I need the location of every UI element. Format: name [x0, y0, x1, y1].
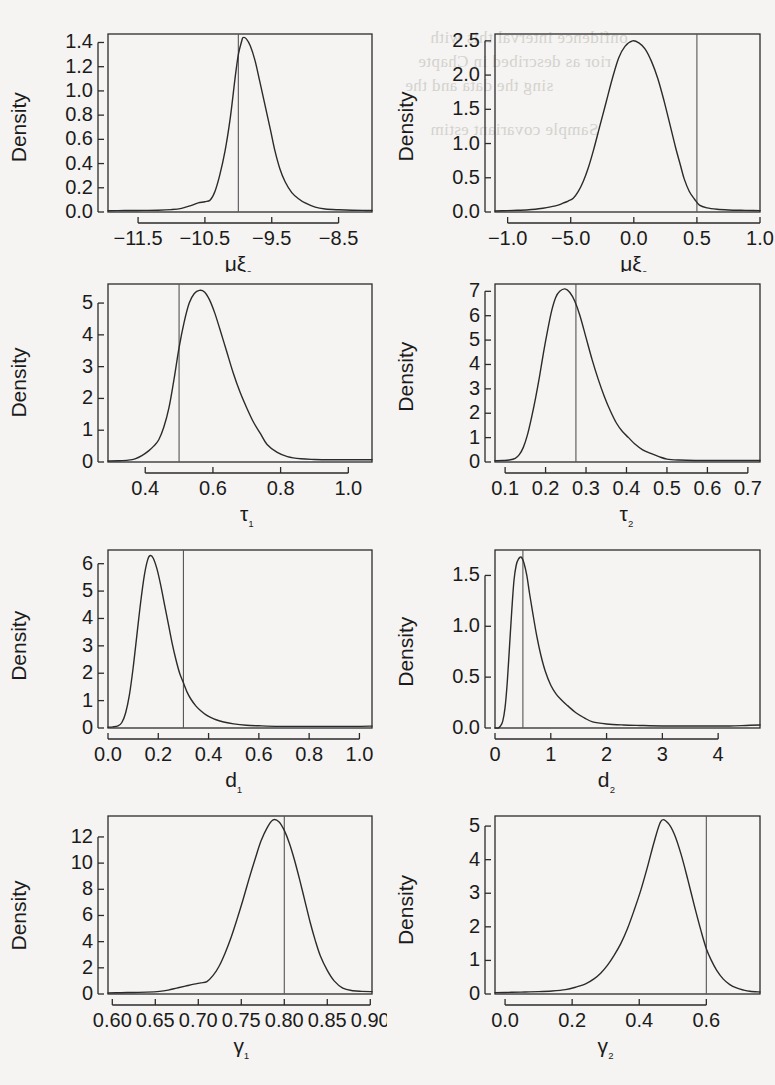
y-tick-label: 4: [469, 352, 480, 374]
x-tick-label: 2: [601, 743, 612, 765]
y-tick-label: 4: [469, 848, 480, 870]
y-tick-label: 0: [82, 982, 93, 1004]
x-tick-label: 0.8: [295, 743, 323, 765]
y-tick-label: 1: [469, 948, 480, 970]
x-tick-label: 0.6: [199, 477, 227, 499]
x-tick-label: 1: [545, 743, 556, 765]
density-plot-svg: 012345Density0.00.20.40.6γ₂: [387, 804, 775, 1085]
density-plot-svg: 0.00.20.40.60.81.01.21.4Density−11.5−10.…: [0, 0, 387, 272]
y-tick-label: 3: [469, 881, 480, 903]
x-tick-label: 0.3: [572, 477, 600, 499]
x-tick-label: 0.0: [491, 1009, 519, 1031]
x-tick-label: 0.2: [558, 1009, 586, 1031]
density-panel-tau2: 01234567Density0.10.20.30.40.50.60.7τ₂: [387, 272, 775, 538]
x-tick-label: 0.4: [625, 1009, 653, 1031]
y-tick-label: 0.5: [452, 166, 480, 188]
y-tick-label: 3: [82, 355, 93, 377]
x-tick-label: 3: [657, 743, 668, 765]
y-tick-label: 4: [82, 606, 93, 628]
plot-frame: [495, 816, 760, 994]
x-tick-label: 1.0: [746, 227, 774, 249]
density-plot-svg: 0123456Density0.00.20.40.60.81.0d₁: [0, 538, 387, 804]
x-tick-label: 0.6: [693, 477, 721, 499]
density-plot-svg: 0.00.51.01.5Density01234d₂: [387, 538, 775, 804]
y-axis-title: Density: [7, 880, 30, 951]
plot-frame: [495, 550, 760, 728]
x-tick-label: 0.1: [491, 477, 519, 499]
plot-frame: [495, 284, 760, 462]
y-tick-label: 7: [469, 279, 480, 301]
y-axis-title: Density: [7, 347, 30, 418]
y-tick-label: 1.2: [65, 55, 93, 77]
x-tick-label: 1.0: [334, 477, 362, 499]
x-tick-label: 0.90: [351, 1009, 387, 1031]
y-tick-label: 0.4: [65, 152, 93, 174]
x-tick-label: 0.7: [734, 477, 762, 499]
y-tick-label: 4: [82, 930, 93, 952]
y-tick-label: 2: [82, 661, 93, 683]
x-tick-label: 0.0: [620, 227, 648, 249]
y-tick-label: 2: [82, 956, 93, 978]
panel-grid: 0.00.20.40.60.81.01.21.4Density−11.5−10.…: [0, 0, 775, 1085]
y-tick-label: 0.5: [452, 665, 480, 687]
plot-frame: [108, 816, 372, 994]
x-tick-label: 0.70: [179, 1009, 218, 1031]
x-tick-label: 0.6: [692, 1009, 720, 1031]
x-tick-label: 0.8: [267, 477, 295, 499]
x-tick-label: −8.5: [319, 227, 358, 249]
y-tick-label: 5: [82, 579, 93, 601]
density-plot-svg: 01234567Density0.10.20.30.40.50.60.7τ₂: [387, 272, 775, 538]
x-axis-title: γ₁: [234, 1034, 250, 1061]
y-tick-label: 0: [82, 450, 93, 472]
y-axis-title: Density: [7, 92, 30, 163]
plot-frame: [495, 34, 760, 212]
y-axis-title: Density: [7, 610, 30, 681]
x-axis-title: γ₂: [598, 1034, 615, 1061]
plot-frame: [108, 550, 372, 728]
x-tick-label: −10.5: [180, 227, 231, 249]
density-curve: [495, 41, 760, 211]
y-tick-label: 2.0: [452, 63, 480, 85]
x-tick-label: 0.0: [94, 743, 122, 765]
x-tick-label: −5.0: [551, 227, 590, 249]
y-axis-title: Density: [394, 341, 417, 412]
density-panel-gamma2: 012345Density0.00.20.40.6γ₂: [387, 804, 775, 1085]
y-tick-label: 2: [469, 915, 480, 937]
figure-page: onfidence interval this with rior as des…: [0, 0, 775, 1085]
y-tick-label: 0.2: [65, 176, 93, 198]
x-tick-label: 0.6: [245, 743, 273, 765]
y-tick-label: 1.5: [452, 563, 480, 585]
y-tick-label: 8: [82, 877, 93, 899]
y-axis-title: Density: [394, 91, 417, 162]
density-curve: [495, 557, 760, 728]
density-panel-d2: 0.00.51.01.5Density01234d₂: [387, 538, 775, 804]
y-tick-label: 0.8: [65, 103, 93, 125]
x-tick-label: 0.5: [683, 227, 711, 249]
density-plot-svg: 0.00.51.01.52.02.5Density−1.0−5.00.00.51…: [387, 0, 775, 272]
density-curve: [108, 37, 372, 210]
y-tick-label: 12: [71, 825, 93, 847]
density-curve: [495, 289, 760, 461]
x-tick-label: 0.4: [195, 743, 223, 765]
y-tick-label: 0.0: [65, 200, 93, 222]
x-tick-label: 0.75: [222, 1009, 261, 1031]
x-tick-label: 0.65: [136, 1009, 175, 1031]
y-tick-label: 0.0: [452, 716, 480, 738]
x-tick-label: −11.5: [114, 227, 163, 249]
y-tick-label: 1.0: [452, 614, 480, 636]
y-tick-label: 3: [469, 377, 480, 399]
x-tick-label: 4: [713, 743, 724, 765]
x-axis-title: μξ₂: [225, 252, 253, 272]
x-tick-label: −1.0: [488, 227, 527, 249]
y-tick-label: 1: [82, 418, 93, 440]
density-curve: [495, 820, 760, 993]
density-curve: [108, 820, 372, 993]
density-curve: [108, 290, 372, 461]
y-tick-label: 2: [469, 401, 480, 423]
x-tick-label: 0.60: [93, 1009, 132, 1031]
density-panel-d1: 0123456Density0.00.20.40.60.81.0d₁: [0, 538, 387, 804]
density-curve: [108, 555, 372, 727]
y-tick-label: 6: [469, 304, 480, 326]
y-tick-label: 1.5: [452, 97, 480, 119]
x-tick-label: 0.4: [613, 477, 641, 499]
